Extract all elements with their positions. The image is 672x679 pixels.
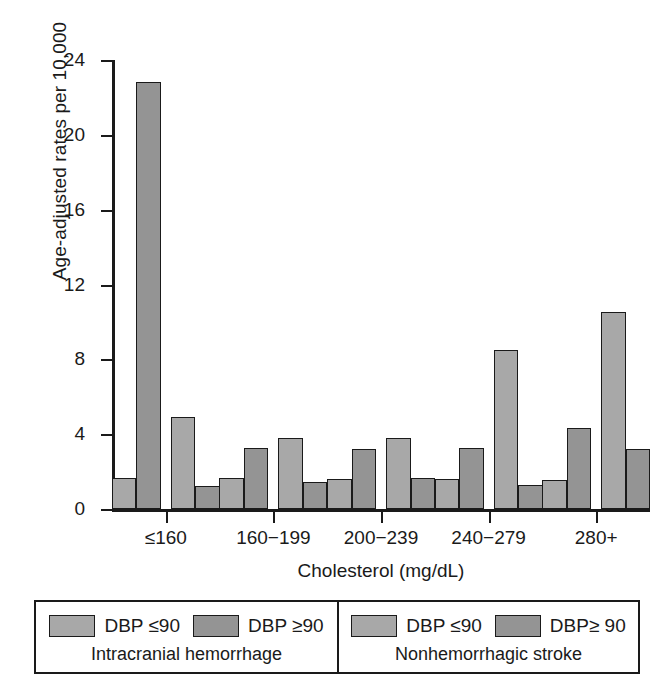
y-tick: 0 [101, 509, 112, 511]
legend-label: DBP ≤90 [104, 615, 180, 637]
bar [136, 82, 161, 509]
x-tick [166, 512, 168, 523]
bar-group [435, 60, 543, 509]
x-axis-tick-labels: ≤160160−199200−239240−279280+ [112, 527, 650, 553]
y-tick-label: 16 [64, 198, 85, 220]
legend-label: DBP ≤90 [406, 615, 482, 637]
y-tick-label: 12 [64, 273, 85, 295]
bar-group [542, 60, 650, 509]
bar [278, 438, 303, 509]
legend-label: DBP ≥90 [248, 615, 324, 637]
x-tick [273, 512, 275, 523]
bar [171, 417, 196, 509]
legend-row: DBP ≤90DBP ≥90 [49, 611, 323, 641]
legend-panel: DBP ≤90DBP≥ 90Nonhemorrhagic stroke [337, 602, 638, 672]
y-tick-label: 4 [74, 423, 85, 445]
x-tick-label: 280+ [575, 527, 618, 549]
bar [244, 448, 269, 509]
y-tick: 20 [101, 135, 112, 137]
bar [112, 478, 137, 509]
y-tick: 8 [101, 359, 112, 361]
legend-label: DBP≥ 90 [550, 615, 626, 637]
bar [352, 449, 377, 509]
plot-area: 04812162024 [112, 60, 650, 512]
legend-swatch [351, 615, 397, 637]
bar [494, 350, 519, 509]
bar [459, 448, 484, 509]
legend-panel: DBP ≤90DBP ≥90Intracranial hemorrhage [36, 602, 337, 672]
x-tick-label: 200−239 [344, 527, 419, 549]
legend-entry: DBP ≤90 [49, 615, 180, 637]
legend-swatch [495, 615, 541, 637]
bar-chart-figure: Age-adjusted rates per 10,000 0481216202… [0, 0, 672, 679]
bar [542, 480, 567, 509]
legend-swatch [193, 615, 239, 637]
x-tick-label: 240−279 [451, 527, 526, 549]
legend-swatch [49, 615, 95, 637]
bar [327, 479, 352, 509]
bar-group [219, 60, 327, 509]
y-tick-label: 8 [74, 348, 85, 370]
legend-entry: DBP ≤90 [351, 615, 482, 637]
bar [303, 482, 328, 509]
x-tick [381, 512, 383, 523]
bar [219, 478, 244, 509]
legend-entry: DBP≥ 90 [495, 615, 626, 637]
x-tick [596, 512, 598, 523]
bar [386, 438, 411, 509]
y-tick-label: 24 [64, 49, 85, 71]
bar [567, 428, 592, 509]
bar-group [112, 60, 220, 509]
bar-group [327, 60, 435, 509]
legend: DBP ≤90DBP ≥90Intracranial hemorrhageDBP… [34, 600, 640, 674]
legend-caption: Intracranial hemorrhage [91, 644, 282, 665]
bar [626, 449, 651, 509]
y-tick: 24 [101, 60, 112, 62]
y-tick: 4 [101, 434, 112, 436]
bar [411, 478, 436, 509]
bar [195, 486, 220, 509]
bar [518, 485, 543, 509]
bar [435, 479, 460, 509]
y-tick-label: 0 [74, 498, 85, 520]
bar [601, 312, 626, 509]
y-tick: 16 [101, 210, 112, 212]
legend-caption: Nonhemorrhagic stroke [395, 644, 582, 665]
x-tick-label: ≤160 [145, 527, 187, 549]
legend-row: DBP ≤90DBP≥ 90 [351, 611, 626, 641]
y-tick-label: 20 [64, 123, 85, 145]
x-axis-title: Cholesterol (mg/dL) [112, 560, 650, 582]
x-tick [489, 512, 491, 523]
x-tick-label: 160−199 [236, 527, 311, 549]
legend-entry: DBP ≥90 [193, 615, 324, 637]
y-tick: 12 [101, 285, 112, 287]
